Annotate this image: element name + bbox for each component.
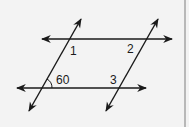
right-transversal-line (106, 19, 158, 111)
diagram-canvas: 1 2 60 3 (0, 0, 189, 127)
angle-2-label: 2 (127, 42, 134, 56)
angle-1-label: 1 (70, 44, 77, 58)
parallel-lines-diagram: 1 2 60 3 (0, 0, 189, 127)
angle-60-label: 60 (56, 73, 70, 87)
left-transversal-line (29, 19, 81, 111)
angle-60-arc-icon (47, 79, 52, 88)
right-border (184, 0, 186, 127)
angle-3-label: 3 (110, 73, 117, 87)
